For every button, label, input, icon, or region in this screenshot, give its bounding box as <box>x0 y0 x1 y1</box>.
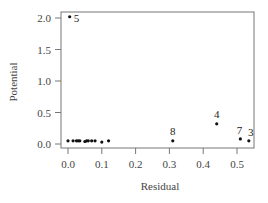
y-tick-label: 0.5 <box>37 107 51 119</box>
x-tick-label: 0.0 <box>61 158 75 170</box>
data-points: 58473 <box>66 12 254 144</box>
x-axis: 0.00.10.20.30.40.5 <box>61 148 244 170</box>
data-point <box>68 15 71 18</box>
y-axis-title: Potential <box>7 62 19 101</box>
data-point <box>71 139 74 142</box>
data-point <box>66 139 69 142</box>
y-tick-label: 0.0 <box>37 138 51 150</box>
point-label: 3 <box>248 126 254 138</box>
x-axis-title: Residual <box>141 180 180 192</box>
data-point <box>107 139 110 142</box>
plot-frame <box>61 12 254 148</box>
x-tick-label: 0.2 <box>129 158 143 170</box>
y-tick-label: 2.0 <box>37 12 51 24</box>
y-tick-label: 1.5 <box>37 44 51 56</box>
data-point <box>239 137 242 140</box>
point-label: 4 <box>214 108 220 120</box>
point-label: 7 <box>237 124 243 136</box>
data-point <box>171 139 174 142</box>
x-tick-label: 0.3 <box>163 158 177 170</box>
data-point <box>215 122 218 125</box>
x-tick-label: 0.5 <box>230 158 244 170</box>
data-point <box>78 139 81 142</box>
point-label: 8 <box>170 125 176 137</box>
data-point <box>90 139 93 142</box>
point-label: 5 <box>74 12 80 24</box>
data-point <box>93 139 96 142</box>
scatter-chart: 0.00.10.20.30.40.5 0.00.51.01.52.0 58473… <box>0 0 268 203</box>
y-axis: 0.00.51.01.52.0 <box>37 12 61 150</box>
y-tick-label: 1.0 <box>37 75 51 87</box>
data-point <box>87 139 90 142</box>
data-point <box>247 139 250 142</box>
x-tick-label: 0.4 <box>196 158 210 170</box>
x-tick-label: 0.1 <box>95 158 109 170</box>
data-point <box>100 141 103 144</box>
